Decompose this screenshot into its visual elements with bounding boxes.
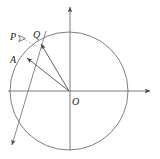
label-o: O: [72, 97, 79, 107]
label-a: A: [10, 55, 16, 65]
ray-oq: [41, 44, 69, 91]
label-q: Q: [33, 30, 40, 40]
p-pointer-icon: [19, 35, 26, 41]
p-connector: [23, 39, 36, 46]
geometry-figure: P Q A O: [0, 0, 160, 159]
label-p: P: [10, 32, 16, 42]
figure-canvas: [0, 0, 160, 159]
